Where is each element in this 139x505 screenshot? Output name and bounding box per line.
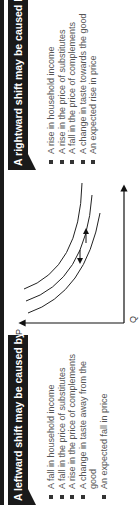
list-item: A rise in household income — [46, 13, 57, 164]
list-item: An expected fall in price — [99, 349, 110, 499]
top-border — [0, 0, 4, 505]
list-item: A change in taste away from the good — [78, 349, 99, 499]
demand-curve-graph: Q P — [14, 173, 139, 333]
header-pointer-icon — [28, 489, 36, 505]
header-pointer-icon — [28, 154, 36, 170]
demand-curve-right — [24, 183, 82, 289]
list-item: A fall in the price of substitutes — [57, 349, 68, 499]
price-axis-label: P — [14, 329, 24, 335]
svg-text:Q: Q — [128, 316, 138, 323]
rightward-causes-list: A rise in household income A rise in the… — [46, 13, 99, 164]
leftward-shift-header: A leftward shift may be caused by — [8, 335, 28, 505]
list-item: An expected rise in price — [88, 13, 99, 164]
demand-curve — [26, 195, 92, 301]
list-item: A rise in the price of complements — [67, 349, 78, 499]
list-item: A rise in the price of substitutes — [57, 13, 68, 164]
demand-curve-left — [28, 213, 100, 313]
leftward-shift-panel: A leftward shift may be caused by A fall… — [8, 335, 139, 505]
leftward-causes-list: A fall in household income A fall in the… — [46, 349, 109, 499]
list-item: A fall in household income — [46, 349, 57, 499]
rightward-shift-header: A rightward shift may be caused by — [8, 0, 28, 170]
demand-shift-diagram: A leftward shift may be caused by A fall… — [0, 0, 139, 505]
list-item: A change in taste towards the good — [78, 13, 89, 164]
rightward-shift-panel: A rightward shift may be caused by A ris… — [8, 0, 139, 170]
list-item: A fall in the price of complements — [67, 13, 78, 164]
